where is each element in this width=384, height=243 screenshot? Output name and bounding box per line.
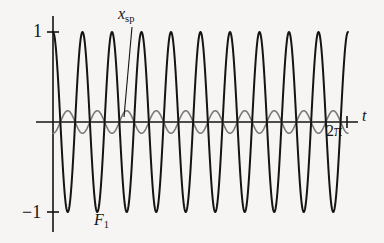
x-axis-end-label: 2π bbox=[326, 123, 342, 139]
x-axis-label-text: t bbox=[362, 107, 366, 124]
curve-label-xsp: xsp bbox=[118, 6, 135, 25]
curve-label-xsp-sub: sp bbox=[125, 13, 134, 24]
y-axis-top-label: 1 bbox=[33, 22, 42, 40]
curve-label-f1: F1 bbox=[94, 212, 109, 231]
curve-label-f1-sub: 1 bbox=[104, 219, 109, 230]
y-axis-bottom-label: −1 bbox=[22, 203, 41, 221]
x-axis-label: t bbox=[362, 108, 366, 124]
curve-label-f1-base: F bbox=[94, 211, 104, 228]
